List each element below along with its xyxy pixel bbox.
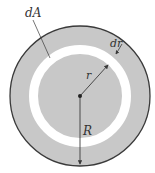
label-R: R: [82, 124, 92, 138]
label-r: r: [86, 69, 92, 82]
label-dA: dA: [25, 6, 42, 20]
center-point: [78, 94, 82, 98]
label-dr: dr: [110, 37, 123, 50]
annulus-diagram: dA dr r R: [0, 0, 155, 173]
